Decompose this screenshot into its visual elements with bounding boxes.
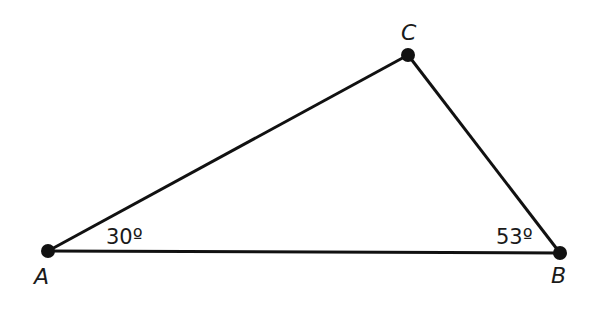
vertex-b-point [553,246,567,260]
triangle-diagram: A B C 30º 53º [0,0,604,309]
vertex-b-label: B [551,263,566,288]
vertex-a-point [41,244,55,258]
vertex-c-label: C [401,20,417,45]
vertex-a-label: A [32,264,49,289]
side-ab [48,251,560,253]
angle-a-label: 30º [106,225,143,249]
vertex-c-point [401,48,415,62]
background [0,0,604,309]
angle-b-label: 53º [496,225,533,249]
